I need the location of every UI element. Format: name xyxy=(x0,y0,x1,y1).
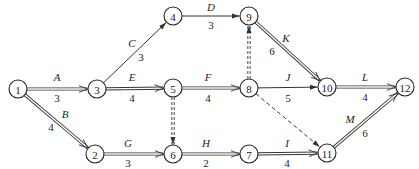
activity-duration: 3 xyxy=(208,19,214,31)
node-label: 1 xyxy=(15,84,21,96)
activity-duration: 4 xyxy=(284,157,290,169)
activity-duration: 4 xyxy=(129,92,135,104)
node-label: 10 xyxy=(322,82,334,94)
network-diagram: A3B4C3D3E4F4G3H2I4J5K6L4M6 1234567891011… xyxy=(0,0,419,169)
activity-name: B xyxy=(62,108,69,120)
activity-name: L xyxy=(361,71,368,83)
node-label: 11 xyxy=(322,148,333,160)
node-1: 1 xyxy=(9,80,27,98)
activity-E xyxy=(106,88,164,89)
activity-duration: 3 xyxy=(54,92,60,104)
activity-name: A xyxy=(53,71,61,83)
node-9: 9 xyxy=(240,7,258,25)
activity-name: C xyxy=(128,37,136,49)
activity-J xyxy=(258,87,318,88)
node-2: 2 xyxy=(86,145,104,163)
node-5: 5 xyxy=(164,79,182,97)
node-10: 10 xyxy=(318,78,336,96)
activity-name: H xyxy=(201,137,211,149)
node-label: 5 xyxy=(170,83,176,95)
activity-duration: 3 xyxy=(125,157,131,169)
activity-name: E xyxy=(128,71,136,83)
node-label: 4 xyxy=(170,11,176,23)
node-3: 3 xyxy=(88,80,106,98)
node-label: 7 xyxy=(246,149,252,161)
node-7: 7 xyxy=(240,145,258,163)
node-label: 12 xyxy=(400,82,411,94)
node-label: 6 xyxy=(170,149,176,161)
activity-duration: 6 xyxy=(362,127,368,139)
activity-duration: 4 xyxy=(48,121,54,133)
node-6: 6 xyxy=(164,145,182,163)
node-label: 2 xyxy=(92,149,98,161)
edges-layer xyxy=(25,16,398,154)
activity-name: G xyxy=(124,137,132,149)
activity-name: F xyxy=(204,71,212,83)
activity-name: J xyxy=(286,71,292,83)
activity-duration: 4 xyxy=(362,91,368,103)
node-12: 12 xyxy=(396,78,414,96)
activity-name: D xyxy=(206,1,215,13)
activity-duration: 4 xyxy=(205,92,211,104)
node-11: 11 xyxy=(318,144,336,162)
activity-name: K xyxy=(281,32,290,44)
activity-duration: 5 xyxy=(285,92,291,104)
node-label: 3 xyxy=(94,84,100,96)
node-label: 8 xyxy=(246,83,252,95)
activity-name: M xyxy=(344,113,355,125)
activity-duration: 6 xyxy=(269,45,275,57)
activity-name: I xyxy=(284,137,290,149)
node-label: 9 xyxy=(246,11,252,23)
node-4: 4 xyxy=(164,7,182,25)
activity-duration: 3 xyxy=(138,51,144,63)
node-8: 8 xyxy=(240,79,258,97)
activity-I xyxy=(258,153,318,154)
activity-duration: 2 xyxy=(203,157,209,169)
